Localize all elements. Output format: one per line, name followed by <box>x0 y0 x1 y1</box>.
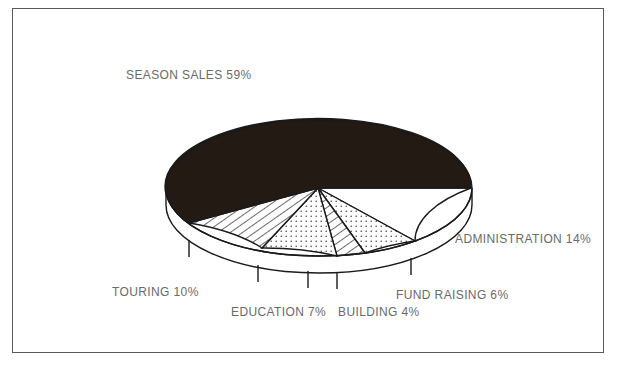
pie-chart-graphic <box>0 0 621 378</box>
chart-page: SEASON SALES 59% ADMINISTRATION 14% TOUR… <box>0 0 621 378</box>
pie-label-education: EDUCATION 7% <box>231 305 326 319</box>
pie-label-fund-raising: FUND RAISING 6% <box>396 288 508 302</box>
pie-label-administration: ADMINISTRATION 14% <box>455 232 591 246</box>
pie-label-building: BUILDING 4% <box>338 305 420 319</box>
pie-label-touring: TOURING 10% <box>112 285 199 299</box>
pie-label-season-sales: SEASON SALES 59% <box>126 68 252 82</box>
